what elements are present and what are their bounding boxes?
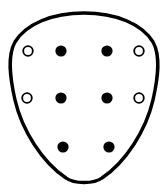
marker-open-middle-right bbox=[134, 93, 144, 103]
marker-open-top-right bbox=[134, 46, 144, 56]
shield-diagram-svg: Shield-shaped outline diagram with nine … bbox=[0, 0, 168, 193]
marker-filled-bottom-right bbox=[103, 141, 114, 152]
marker-filled-middle-inner-left bbox=[55, 92, 66, 103]
figure-root: Shield-shaped outline diagram with nine … bbox=[0, 0, 168, 193]
marker-filled-top-inner-left bbox=[55, 45, 66, 56]
marker-filled-top-inner-right bbox=[101, 45, 112, 56]
marker-open-top-left bbox=[23, 46, 33, 56]
marker-filled-bottom-left bbox=[57, 141, 68, 152]
marker-open-middle-left bbox=[22, 93, 32, 103]
marker-filled-middle-inner-right bbox=[101, 92, 112, 103]
